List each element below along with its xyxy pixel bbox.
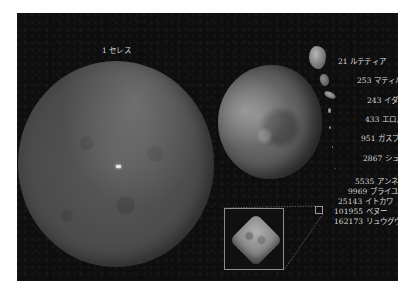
ida-image [323, 90, 336, 101]
ryugu-image [229, 213, 283, 267]
ryugu-marker-box [315, 206, 323, 214]
annefrank-image [335, 168, 336, 169]
mathilde-label: 253 マティルド [357, 76, 398, 85]
gaspra-image [329, 126, 331, 129]
ryugu-inset-box [224, 208, 284, 270]
eros-image [328, 108, 331, 113]
ceres-image [18, 61, 214, 267]
braille-label: 9969 ブライユ [348, 187, 398, 196]
bennu-label: 101955 ベヌー [334, 207, 387, 216]
itokawa-label: 25143 イトカワ [338, 197, 393, 206]
ceres-label: 1 セレス [102, 46, 131, 55]
lutetia-label: 21 ルテティア [338, 57, 386, 66]
annefrank-label: 5535 アンネフランク [355, 177, 398, 186]
mathilde-image [318, 73, 331, 87]
ida-label: 243 イダ [367, 96, 398, 105]
lutetia-image [309, 46, 326, 69]
gaspra-label: 951 ガスプラ [361, 134, 398, 143]
comparison-image-panel: 1 セレス 4 ベスタ 21 ルテティア 253 マティルド 243 イダ 43… [17, 13, 398, 281]
ceres-bright-spot [116, 165, 121, 168]
eros-label: 433 エロス [365, 115, 398, 124]
vesta-image [218, 65, 322, 179]
ryugu-label: 162173 リュウグウ [334, 217, 398, 226]
steins-label: 2867 シュテインス [363, 154, 398, 163]
steins-image [332, 146, 333, 148]
